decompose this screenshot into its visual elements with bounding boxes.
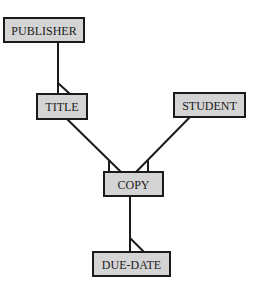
relationship-copy-due-date [130, 196, 144, 252]
entity-label: DUE-DATE [102, 258, 161, 272]
crows-foot-mark [58, 83, 70, 94]
entity-copy[interactable]: COPY [104, 172, 163, 196]
entity-title[interactable]: TITLE [37, 94, 87, 119]
relationship-line [67, 119, 121, 172]
entity-label: STUDENT [182, 99, 237, 113]
entity-label: PUBLISHER [11, 24, 76, 38]
relationship-line [136, 117, 190, 172]
entity-due-date[interactable]: DUE-DATE [93, 252, 170, 276]
relationship-title-copy [67, 119, 121, 172]
entity-publisher[interactable]: PUBLISHER [4, 18, 84, 42]
entity-label: COPY [117, 178, 149, 192]
entity-student[interactable]: STUDENT [174, 93, 245, 117]
relationship-publisher-title [58, 42, 70, 94]
crows-foot-mark [130, 238, 144, 252]
entity-label: TITLE [45, 100, 78, 114]
er-diagram: PUBLISHER TITLE STUDENT COPY DUE-DATE [0, 0, 259, 289]
relationship-student-copy [136, 117, 190, 172]
